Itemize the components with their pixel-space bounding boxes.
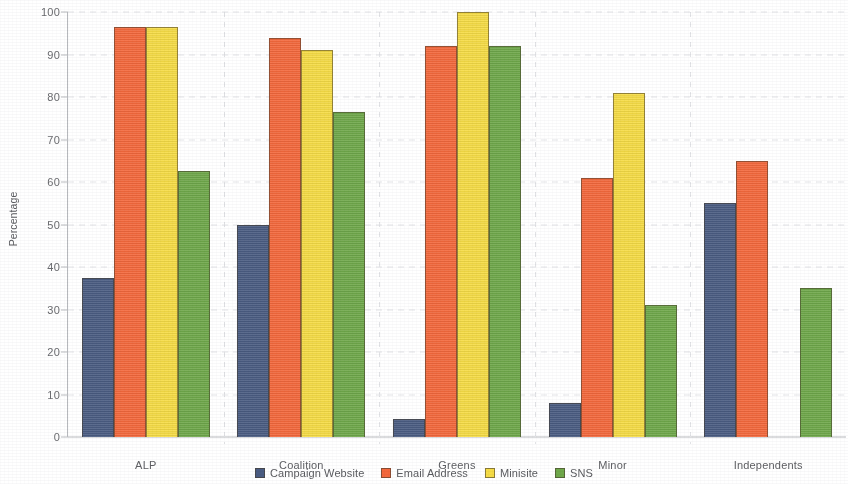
- legend-label: Campaign Website: [270, 467, 364, 479]
- y-tick-mark: [61, 437, 68, 438]
- y-tick-label: 30: [8, 304, 60, 316]
- bar[interactable]: [178, 171, 210, 437]
- bar-chart-figure: Percentage 1009080706050403020100ALPCoal…: [0, 0, 848, 484]
- y-tick-label: 50: [8, 219, 60, 231]
- y-tick-label: 20: [8, 346, 60, 358]
- legend-item[interactable]: Minisite: [485, 467, 538, 479]
- y-tick-label: 10: [8, 389, 60, 401]
- bar-group: [690, 12, 846, 437]
- bar[interactable]: [301, 50, 333, 437]
- bar[interactable]: [549, 403, 581, 437]
- legend-item[interactable]: Email Address: [381, 467, 468, 479]
- y-tick-mark: [61, 267, 68, 268]
- legend-item[interactable]: SNS: [555, 467, 593, 479]
- y-tick-label: 40: [8, 261, 60, 273]
- legend-swatch-icon: [255, 468, 265, 478]
- y-tick-mark: [61, 224, 68, 225]
- y-tick-label: 60: [8, 176, 60, 188]
- bar[interactable]: [457, 12, 489, 437]
- bar[interactable]: [237, 225, 269, 438]
- bar[interactable]: [146, 27, 178, 437]
- legend-item[interactable]: Campaign Website: [255, 467, 364, 479]
- bar[interactable]: [581, 178, 613, 437]
- bar-group: [224, 12, 380, 437]
- legend-label: Minisite: [500, 467, 538, 479]
- y-tick-mark: [61, 352, 68, 353]
- bar[interactable]: [269, 38, 301, 438]
- bar[interactable]: [736, 161, 768, 437]
- legend-swatch-icon: [381, 468, 391, 478]
- legend-label: SNS: [570, 467, 593, 479]
- bar[interactable]: [800, 288, 832, 437]
- chart-legend: Campaign WebsiteEmail AddressMinisiteSNS: [0, 467, 848, 479]
- y-tick-label: 0: [8, 431, 60, 443]
- legend-swatch-icon: [555, 468, 565, 478]
- y-tick-label: 70: [8, 134, 60, 146]
- plot-area: 1009080706050403020100ALPCoalitionGreens…: [68, 12, 846, 437]
- legend-swatch-icon: [485, 468, 495, 478]
- bar-group: [379, 12, 535, 437]
- y-tick-mark: [61, 54, 68, 55]
- bar[interactable]: [82, 278, 114, 437]
- bar[interactable]: [704, 203, 736, 437]
- y-tick-mark: [61, 394, 68, 395]
- y-tick-label: 80: [8, 91, 60, 103]
- bar[interactable]: [393, 419, 425, 437]
- y-tick-mark: [61, 139, 68, 140]
- y-tick-mark: [61, 12, 68, 13]
- y-tick-label: 100: [8, 6, 60, 18]
- bar-group: [535, 12, 691, 437]
- y-tick-mark: [61, 309, 68, 310]
- y-tick-mark: [61, 182, 68, 183]
- bar[interactable]: [333, 112, 365, 437]
- bar[interactable]: [613, 93, 645, 437]
- bar-group: [68, 12, 224, 437]
- legend-label: Email Address: [396, 467, 468, 479]
- bar[interactable]: [489, 46, 521, 437]
- y-tick-mark: [61, 97, 68, 98]
- bar[interactable]: [645, 305, 677, 437]
- y-tick-label: 90: [8, 49, 60, 61]
- bar[interactable]: [114, 27, 146, 437]
- bar[interactable]: [425, 46, 457, 437]
